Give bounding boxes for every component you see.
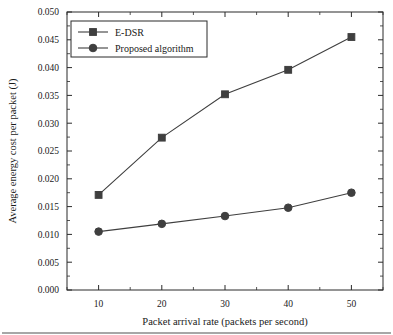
x-tick-label-1: 20 bbox=[157, 299, 167, 309]
series-1-point-2 bbox=[221, 212, 229, 220]
series-1-point-1 bbox=[158, 220, 166, 228]
y-tick-label-0: 0.000 bbox=[38, 285, 60, 295]
x-tick-label-2: 30 bbox=[220, 299, 230, 309]
series-0-point-0 bbox=[95, 192, 102, 199]
legend-marker-0 bbox=[90, 29, 97, 36]
y-tick-label-8: 0.040 bbox=[38, 63, 60, 73]
x-tick-label-0: 10 bbox=[94, 299, 104, 309]
series-1-point-4 bbox=[348, 189, 356, 197]
y-tick-label-2: 0.010 bbox=[38, 230, 60, 240]
y-tick-label-1: 0.005 bbox=[38, 258, 60, 268]
series-1-point-3 bbox=[284, 204, 292, 212]
legend-label-1: Proposed algorithm bbox=[115, 43, 194, 54]
series-line-0 bbox=[99, 37, 352, 195]
y-axis-title-text: Average energy cost per packet (J) bbox=[7, 78, 19, 224]
series-0-point-3 bbox=[285, 66, 292, 73]
x-tick-label-4: 50 bbox=[347, 299, 357, 309]
x-axis-title-text: Packet arrival rate (packets per second) bbox=[142, 316, 308, 328]
y-tick-label-3: 0.015 bbox=[38, 202, 60, 212]
line-chart: 0.0000.0050.0100.0150.0200.0250.0300.035… bbox=[0, 0, 393, 335]
legend-marker-1 bbox=[89, 44, 97, 52]
y-tick-label-5: 0.025 bbox=[38, 146, 60, 156]
series-0-point-4 bbox=[348, 34, 355, 41]
series-0-point-2 bbox=[222, 91, 229, 98]
figure-container: 0.0000.0050.0100.0150.0200.0250.0300.035… bbox=[0, 0, 393, 335]
y-tick-label-6: 0.030 bbox=[38, 119, 60, 129]
y-tick-label-9: 0.045 bbox=[38, 35, 60, 45]
series-1-point-0 bbox=[95, 228, 103, 236]
y-tick-label-4: 0.020 bbox=[38, 174, 60, 184]
series-0-point-1 bbox=[158, 134, 165, 141]
y-tick-label-10: 0.050 bbox=[38, 7, 60, 17]
y-tick-label-7: 0.035 bbox=[38, 91, 60, 101]
legend-label-0: E-DSR bbox=[115, 27, 144, 38]
x-tick-label-3: 40 bbox=[283, 299, 293, 309]
